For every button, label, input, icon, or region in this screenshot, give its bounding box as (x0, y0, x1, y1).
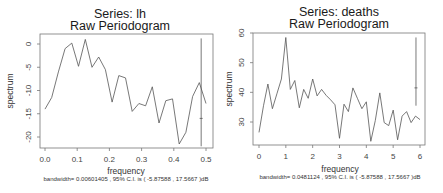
spectrum-line (45, 39, 206, 144)
x-tick-label: 0.3 (136, 155, 148, 164)
y-tick-label: 40 (237, 87, 246, 96)
plot-frame (253, 33, 425, 145)
x-axis-label: frequency (321, 164, 359, 174)
x-tick-label: 1 (284, 152, 289, 161)
chart-panel-deaths: Series: deaths Raw Periodogram 30405060 … (222, 0, 443, 193)
x-tick-label: 2 (310, 152, 315, 161)
periodogram-chart-deaths: Series: deaths Raw Periodogram 30405060 … (222, 0, 443, 193)
x-axis-label: frequency (107, 166, 145, 176)
x-axis: 0.00.10.20.30.40.5 (39, 148, 212, 164)
bandwidth-note: bandwidth= 0.0481124 , 95% C.I. is ( -5.… (259, 174, 420, 180)
chart-subtitle: Raw Periodogram (70, 19, 170, 33)
y-tick-label: 50 (237, 58, 246, 67)
x-tick-label: 0.5 (200, 155, 212, 164)
y-tick-label: -10 (24, 84, 33, 96)
y-tick-label: -20 (24, 131, 33, 143)
y-axis: 30405060 (237, 28, 253, 126)
x-tick-label: 0.1 (72, 155, 84, 164)
confidence-interval-bar (414, 37, 417, 105)
spectrum-line (259, 38, 420, 142)
y-axis-label: spectrum (5, 74, 15, 109)
chart-subtitle: Raw Periodogram (289, 17, 389, 31)
y-tick-label: 30 (237, 117, 246, 126)
y-tick-label: 60 (237, 28, 246, 37)
bandwidth-note: bandwidth= 0.00601405 , 95% C.I. is ( -5… (44, 176, 209, 182)
x-tick-label: 0.2 (104, 155, 116, 164)
x-tick-label: 0 (257, 152, 262, 161)
x-tick-label: 0.0 (39, 155, 51, 164)
x-tick-label: 3 (337, 152, 342, 161)
x-axis: 0123456 (257, 145, 423, 161)
y-tick-label: 0 (24, 41, 33, 46)
x-tick-label: 5 (391, 152, 396, 161)
plot-frame (40, 34, 213, 148)
y-axis: 0-5-10-15-20 (24, 41, 40, 143)
periodogram-chart-lh: Series: lh Raw Periodogram 0-5-10-15-20 … (0, 0, 222, 193)
x-tick-label: 4 (364, 152, 369, 161)
y-axis-label: spectrum (224, 72, 234, 107)
x-tick-label: 0.4 (168, 155, 180, 164)
y-tick-label: -5 (24, 63, 33, 71)
x-tick-label: 6 (418, 152, 423, 161)
chart-panel-lh: Series: lh Raw Periodogram 0-5-10-15-20 … (0, 0, 222, 193)
y-tick-label: -15 (24, 107, 33, 119)
